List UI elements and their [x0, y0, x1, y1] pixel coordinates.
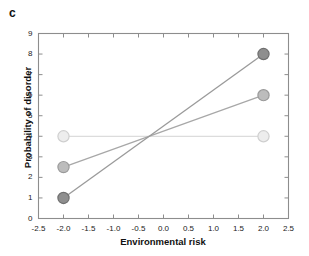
y-tick-label: 8 [17, 50, 33, 58]
y-tick-label: 9 [17, 30, 33, 38]
series-line-moderate-slope-group [64, 95, 264, 167]
series-lines [64, 54, 264, 198]
y-tick-label: 1 [17, 194, 33, 202]
data-point-steep-slope-group [258, 48, 269, 59]
y-tick-label: 0 [17, 215, 33, 223]
data-point-moderate-slope-group [258, 90, 269, 101]
y-tick-label: 4 [17, 132, 33, 140]
data-point-moderate-slope-group [58, 162, 69, 173]
data-point-flat-group [58, 131, 69, 142]
y-tick-label: 5 [17, 112, 33, 120]
series-line-steep-slope-group [64, 54, 264, 198]
data-point-steep-slope-group [58, 192, 69, 203]
figure-panel-c: c Probability of disorder Environmental … [0, 0, 309, 256]
data-point-flat-group [258, 131, 269, 142]
y-tick-label: 7 [17, 71, 33, 79]
chart-plot-area [0, 0, 309, 256]
y-tick-label: 2 [17, 173, 33, 181]
y-tick-label: 3 [17, 153, 33, 161]
x-tick-label: 2.5 [274, 225, 304, 233]
y-tick-label: 6 [17, 91, 33, 99]
